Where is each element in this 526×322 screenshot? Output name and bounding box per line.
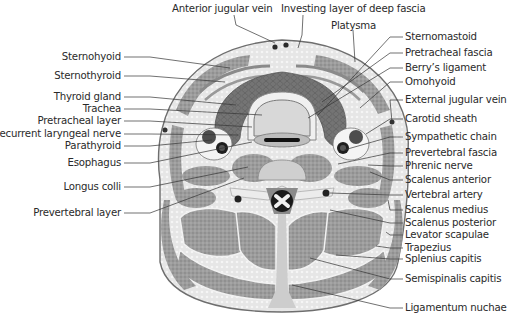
label-omohyoid: Omohyoid <box>405 76 456 88</box>
carotid-sheath-right <box>333 128 369 160</box>
label-levator-scapulae: Levator scapulae <box>405 229 489 241</box>
label-recurrent-laryngeal-nerve: Recurrent laryngeal nerve <box>0 128 121 140</box>
label-anterior-jugular-vein: Anterior jugular vein <box>172 3 272 15</box>
label-splenius-capitis: Splenius capitis <box>405 253 481 265</box>
label-scalenus-anterior: Scalenus anterior <box>405 174 491 186</box>
label-semispinalis-capitis: Semispinalis capitis <box>405 273 501 285</box>
label-pretracheal-layer: Pretracheal layer <box>38 115 121 127</box>
label-longus-colli: Longus colli <box>63 181 121 193</box>
label-trachea: Trachea <box>83 103 121 115</box>
label-berrys-ligament: Berry’s ligament <box>405 62 486 74</box>
anterior-jugular-vein-left <box>272 44 277 49</box>
anterior-jugular-vein-right <box>283 42 288 47</box>
label-carotid-sheath: Carotid sheath <box>405 113 477 125</box>
label-sternomastoid: Sternomastoid <box>405 31 477 43</box>
label-thyroid-gland: Thyroid gland <box>54 91 121 103</box>
external-jugular-vein-left <box>163 128 168 133</box>
label-scalenus-posterior: Scalenus posterior <box>405 217 496 229</box>
label-platysma: Platysma <box>331 20 376 32</box>
vertebral-artery-left <box>235 196 242 203</box>
label-external-jugular-vein: External jugular vein <box>405 94 507 106</box>
label-investing-layer: Investing layer of deep fascia <box>281 3 425 15</box>
label-parathyroid: Parathyroid <box>65 140 121 152</box>
label-prevertebral-fascia: Prevertebral fascia <box>405 147 497 159</box>
label-vertebral-artery: Vertebral artery <box>405 189 483 201</box>
esophagus-shape <box>254 133 310 147</box>
label-esophagus: Esophagus <box>67 157 121 169</box>
label-ligamentum-nuchae: Ligamentum nuchae <box>405 302 507 314</box>
label-sternothyroid: Sternothyroid <box>54 70 121 82</box>
label-sympathetic-chain: Sympathetic chain <box>405 131 497 143</box>
vertebral-artery-right <box>323 190 330 197</box>
label-phrenic-nerve: Phrenic nerve <box>405 160 473 172</box>
label-prevertebral-layer: Prevertebral layer <box>33 207 121 219</box>
carotid-sheath-left <box>196 128 232 160</box>
label-pretracheal-fascia: Pretracheal fascia <box>405 47 492 59</box>
label-scalenus-medius: Scalenus medius <box>405 204 488 216</box>
label-sternohyoid: Sternohyoid <box>62 51 121 63</box>
